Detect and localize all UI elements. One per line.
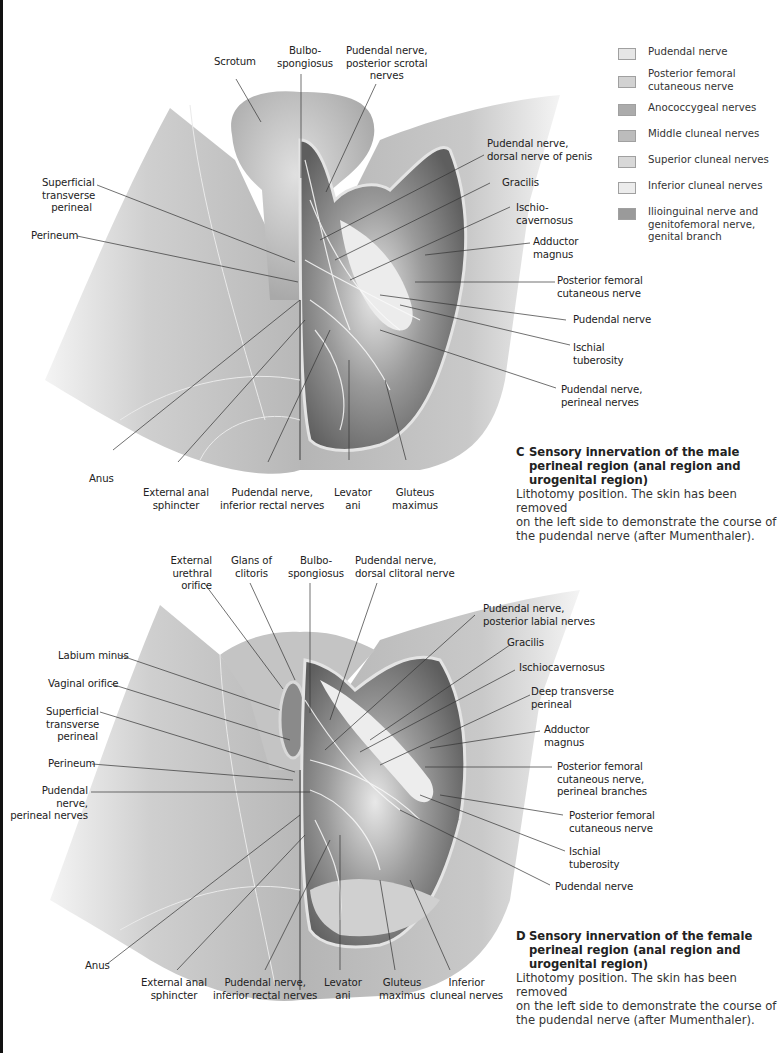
label-superficial-transverse-perineal: Superficial transverse perineal [42, 177, 92, 215]
swatch-anococcygeal [618, 104, 636, 116]
caption-figure-c: C Sensory innervation of the male perine… [516, 445, 778, 543]
label-levator-ani-d: Levator ani [324, 977, 362, 1002]
swatch-pudendal [618, 48, 636, 60]
label-inferior-cluneal: Inferior cluneal nerves [430, 977, 503, 1002]
legend-label: Middle cluneal nerves [648, 128, 759, 141]
caption-letter: C [516, 445, 529, 487]
label-pudendal-dorsal-clitoral: Pudendal nerve, dorsal clitoral nerve [355, 555, 455, 580]
caption-body: Lithotomy position. The skin has been re… [516, 971, 778, 1027]
label-gracilis: Gracilis [502, 177, 539, 190]
label-anus-d: Anus [85, 960, 110, 973]
label-adductor-magnus-d: Adductor magnus [544, 724, 589, 749]
legend-label: Anococcygeal nerves [648, 102, 756, 115]
label-gracilis-d: Gracilis [507, 637, 544, 650]
legend-item-inferior-cluneal: Inferior cluneal nerves [618, 180, 762, 194]
label-pudendal-nerve: Pudendal nerve [573, 314, 651, 327]
label-pudendal-inferior-rectal: Pudendal nerve, inferior rectal nerves [220, 487, 324, 512]
label-perineum-d: Perineum [48, 758, 95, 771]
figure-c-illustration [45, 91, 560, 473]
swatch-middle-cluneal [618, 130, 636, 142]
label-ischial-tuberosity: Ischial tuberosity [573, 342, 624, 367]
label-superficial-transverse-perineal-d: Superficial transverse perineal [46, 706, 98, 744]
label-posterior-femoral-perineal-branches: Posterior femoral cutaneous nerve, perin… [557, 761, 647, 799]
legend-item-posterior-femoral: Posterior femoral cutaneous nerve [618, 68, 736, 93]
label-posterior-femoral-cutaneous: Posterior femoral cutaneous nerve [557, 275, 643, 300]
caption-title: Sensory innervation of the male perineal… [529, 445, 741, 487]
legend-label: Posterior femoral cutaneous nerve [648, 68, 736, 93]
caption-figure-d: D Sensory innervation of the female peri… [516, 929, 778, 1027]
caption-letter: D [516, 929, 529, 971]
legend-label: Superior cluneal nerves [648, 154, 769, 167]
caption-title: Sensory innervation of the female perine… [529, 929, 752, 971]
label-pudendal-posterior-scrotal: Pudendal nerve, posterior scrotal nerves [346, 45, 427, 83]
label-external-anal-sphincter-d: External anal sphincter [141, 977, 207, 1002]
label-deep-transverse-perineal: Deep transverse perineal [531, 686, 614, 711]
label-external-anal-sphincter: External anal sphincter [143, 487, 209, 512]
swatch-superior-cluneal [618, 156, 636, 168]
legend-item-superior-cluneal: Superior cluneal nerves [618, 154, 769, 168]
legend-label: Ilioinguinal nerve and genitofemoral ner… [648, 206, 758, 244]
label-posterior-femoral-cutaneous-d: Posterior femoral cutaneous nerve [569, 810, 655, 835]
label-external-urethral-orifice: External urethral orifice [150, 555, 212, 593]
legend-item-pudendal: Pudendal nerve [618, 46, 728, 60]
label-vaginal-orifice: Vaginal orifice [48, 678, 119, 691]
label-anus: Anus [89, 473, 114, 486]
legend-label: Pudendal nerve [648, 46, 728, 59]
label-bulbospongiosus-d: Bulbo- spongiosus [288, 555, 344, 580]
legend-item-anococcygeal: Anococcygeal nerves [618, 102, 756, 116]
legend-label: Inferior cluneal nerves [648, 180, 762, 193]
label-perineum: Perineum [31, 230, 78, 243]
label-gluteus-maximus: Gluteus maximus [392, 487, 438, 512]
swatch-posterior-femoral [618, 76, 636, 88]
label-scrotum: Scrotum [214, 56, 256, 69]
label-pudendal-nerve-d: Pudendal nerve [555, 881, 633, 894]
label-pudendal-inferior-rectal-d: Pudendal nerve, inferior rectal nerves [213, 977, 317, 1002]
label-glans-clitoris: Glans of clitoris [231, 555, 272, 580]
label-ischiocavernosus-d: Ischiocavernosus [519, 662, 605, 675]
label-adductor-magnus: Adductor magnus [533, 236, 578, 261]
label-ischial-tuberosity-d: Ischial tuberosity [569, 846, 620, 871]
label-pudendal-posterior-labial: Pudendal nerve, posterior labial nerves [483, 603, 595, 628]
swatch-ilioinguinal [618, 208, 636, 220]
label-bulbospongiosus: Bulbo- spongiosus [277, 45, 333, 70]
legend-item-ilioinguinal-genitofemoral: Ilioinguinal nerve and genitofemoral ner… [618, 206, 758, 244]
label-pudendal-perineal: Pudendal nerve, perineal nerves [561, 384, 642, 409]
label-levator-ani: Levator ani [334, 487, 372, 512]
swatch-inferior-cluneal [618, 182, 636, 194]
caption-body: Lithotomy position. The skin has been re… [516, 487, 778, 543]
label-gluteus-maximus-d: Gluteus maximus [379, 977, 425, 1002]
legend-item-middle-cluneal: Middle cluneal nerves [618, 128, 759, 142]
label-ischiocavernosus: Ischio- cavernosus [516, 202, 573, 227]
label-labium-minus: Labium minus [58, 650, 129, 663]
label-pudendal-dorsal-penis: Pudendal nerve, dorsal nerve of penis [487, 138, 592, 163]
label-pudendal-perineal-d: Pudendal nerve, perineal nerves [10, 785, 88, 823]
